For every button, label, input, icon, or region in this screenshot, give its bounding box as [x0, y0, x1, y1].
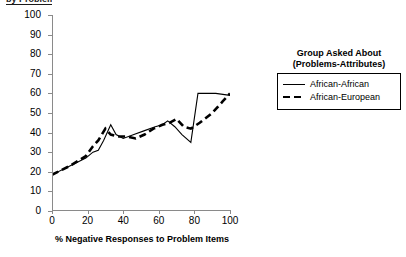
x-tick — [159, 210, 160, 214]
legend-title-line1: Group Asked About — [277, 48, 401, 59]
x-tick — [88, 210, 89, 214]
legend-item-african-african: African-African — [283, 78, 395, 91]
solid-line-swatch-icon — [283, 80, 305, 89]
x-tick-label: 80 — [189, 215, 200, 226]
x-tick-label: 40 — [118, 215, 129, 226]
x-tick-label: 100 — [222, 215, 239, 226]
series-path-0 — [52, 93, 230, 174]
legend-item-african-european: African-European — [283, 91, 395, 104]
y-tick — [48, 133, 52, 134]
x-axis-title: % Negative Responses to Problem Items — [52, 234, 232, 244]
y-tick — [48, 93, 52, 94]
x-tick-label: 20 — [82, 215, 93, 226]
y-tick — [48, 74, 52, 75]
y-tick-label: 70 — [30, 69, 41, 79]
y-tick — [48, 152, 52, 153]
y-tick-label: 20 — [30, 167, 41, 177]
y-axis-line — [52, 15, 53, 211]
y-tick-label: 90 — [30, 30, 41, 40]
x-tick — [194, 210, 195, 214]
cropped-heading-fragment: by Problems — [6, 0, 52, 5]
y-tick-label: 10 — [30, 186, 41, 196]
y-tick-label: 0 — [35, 206, 41, 216]
y-tick-label: 60 — [30, 88, 41, 98]
x-axis-tick-labels: 020406080100 — [52, 215, 230, 229]
legend: Group Asked About (Problems-Attributes) … — [277, 48, 401, 110]
y-tick — [48, 15, 52, 16]
y-tick-label: 100 — [24, 10, 41, 20]
y-tick — [48, 35, 52, 36]
legend-box: African-African African-European — [277, 73, 401, 110]
chart-figure: by Problems 0102030405060708090100 02040… — [0, 0, 406, 257]
series-lines — [52, 15, 230, 211]
series-path-1 — [52, 93, 230, 174]
y-tick-label: 40 — [30, 128, 41, 138]
x-axis-line — [52, 210, 230, 211]
x-tick — [52, 210, 53, 214]
legend-title-line2: (Problems-Attributes) — [277, 59, 401, 70]
y-tick — [48, 191, 52, 192]
y-tick — [48, 172, 52, 173]
cropped-heading-text: by Problems — [6, 0, 52, 5]
x-tick — [123, 210, 124, 214]
y-axis-tick-labels: 0102030405060708090100 — [0, 15, 48, 211]
y-tick-label: 30 — [30, 147, 41, 157]
x-tick-label: 60 — [153, 215, 164, 226]
y-tick — [48, 113, 52, 114]
x-tick-label: 0 — [49, 215, 55, 226]
plot-area — [52, 15, 230, 211]
x-tick — [230, 210, 231, 214]
y-tick-label: 50 — [30, 108, 41, 118]
y-tick — [48, 54, 52, 55]
legend-label-1: African-European — [310, 92, 380, 103]
dashed-line-swatch-icon — [283, 93, 305, 102]
legend-title: Group Asked About (Problems-Attributes) — [277, 48, 401, 70]
legend-label-0: African-African — [310, 79, 369, 90]
y-tick-label: 80 — [30, 49, 41, 59]
